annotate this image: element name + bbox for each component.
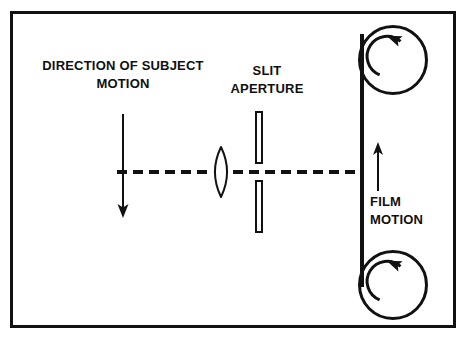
diagram-canvas: DIRECTION OF SUBJECT MOTION SLIT APERTUR…: [0, 0, 469, 343]
slit-aperture-bar-top: [256, 112, 262, 163]
slit-aperture-bar-bottom: [256, 181, 262, 232]
subject-motion-label-line1: DIRECTION OF SUBJECT: [42, 58, 203, 73]
slit-aperture-label-line2: APERTURE: [230, 81, 303, 96]
film-motion-label-line2: MOTION: [370, 212, 423, 227]
subject-motion-label-line2: MOTION: [96, 76, 149, 91]
slit-camera-diagram: DIRECTION OF SUBJECT MOTION SLIT APERTUR…: [0, 0, 469, 343]
slit-aperture-label-line1: SLIT: [253, 63, 282, 78]
film-motion-label-line1: FILM: [370, 194, 401, 209]
